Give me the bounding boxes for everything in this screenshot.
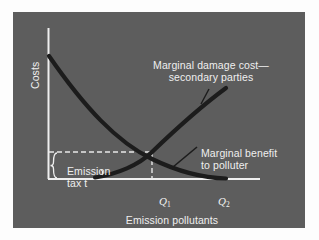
x-tick-label-q2-subscript: 2 (226, 200, 230, 209)
y-axis-label: Costs (30, 62, 42, 89)
marginal-damage-cost-label: Marginal damage cost—secondary parties (143, 60, 279, 84)
x-tick-label-q1: Q1 (159, 195, 171, 207)
x-tick-label-q2-text: Q (218, 195, 226, 207)
benefit-label-leader-line (173, 147, 197, 167)
x-tick-label-q1-subscript: 1 (167, 200, 171, 209)
marginal-benefit-label: Marginal benefitto polluter (201, 148, 277, 172)
marginal-damage-cost-label-line2: secondary parties (169, 71, 254, 83)
marginal-damage-cost-label-line1: Marginal damage cost— (153, 59, 269, 71)
emission-tax-label: Emissiontax t (67, 166, 110, 190)
marginal-benefit-label-line1: Marginal benefit (201, 147, 277, 159)
marginal-benefit-label-line2: to polluter (201, 159, 248, 171)
diagram-panel: Marginal damage cost—secondary parties M… (13, 12, 305, 228)
emission-tax-brace (51, 153, 58, 178)
emission-tax-label-line1: Emission (67, 165, 110, 177)
x-tick-label-q2: Q2 (218, 195, 230, 207)
x-axis-label: Emission pollutants (97, 215, 247, 227)
diagram-screenshot: Marginal damage cost—secondary parties M… (0, 0, 319, 240)
x-tick-label-q1-text: Q (159, 195, 167, 207)
emission-tax-label-line2: tax t (67, 177, 87, 189)
